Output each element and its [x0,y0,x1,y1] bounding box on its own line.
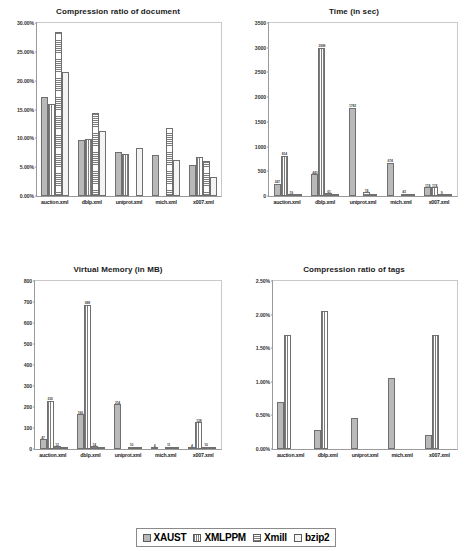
bar-group: 24781419 [269,23,307,196]
x-axis-label: auction.xml [36,199,73,205]
bar [203,161,210,196]
bar: 10 [128,447,135,449]
bar-value-label: 443 [312,171,317,175]
bar-value-label: 9 [441,191,443,195]
bar [166,128,173,196]
legend-label: XAUST [154,532,187,543]
bar: 166 [77,414,84,449]
bar-value-label: 814 [282,152,287,156]
bar: 688 [84,305,91,449]
bar: 247 [274,184,281,196]
bar-value-label: 10 [130,443,133,447]
bar [85,139,92,196]
plot-area: 0100200300400500600700800472301216668814… [34,280,222,450]
bar [351,418,358,449]
bar: 814 [281,156,288,196]
x-axis-label: auction.xml [272,452,309,458]
legend-item: bzip2 [294,532,330,543]
bar-value-label: 12 [55,443,58,447]
bar: 4 [151,447,158,449]
bar [388,378,395,449]
chart-panel-time-in-sec: Time (in sec) 05001000150020002500300035… [236,0,472,258]
bar [115,152,122,196]
bar-value-label: 174 [432,184,437,188]
bar-group: 411 [147,281,184,449]
bar [78,140,85,197]
bar [99,131,106,196]
bar-group: 67443 [382,23,420,196]
y-axis-tick-label: 15.00% [17,107,37,113]
bar: 10 [202,447,209,449]
bar [196,157,203,196]
bar-group [273,281,310,449]
legend-label: Xmill [264,532,287,543]
chart-title: Compression ratio of tags [236,258,472,274]
x-axis-label: uniprot.xml [346,452,383,458]
bar-group [74,23,111,196]
bar [408,194,415,196]
bar-value-label: 19 [290,191,293,195]
bar [284,335,291,449]
chart-title: Virtual Memory (in MB) [0,258,236,274]
chart-panel-compression-ratio-of-tags: Compression ratio of tags 0.00%0.50%1.00… [236,258,472,500]
bar [122,154,129,196]
bar-group: 412810 [184,281,221,449]
bar-group [147,23,184,196]
bar [62,72,69,196]
chart-grid: Compression ratio of document 0.00%5.00%… [0,0,472,500]
x-axis-label: uniprot.xml [344,199,382,205]
figure-page: Compression ratio of document 0.00%5.00%… [0,0,472,551]
bar: 4 [188,447,195,449]
x-axis-label: dblp.xml [72,452,110,458]
bar-group [383,281,420,449]
chart-title: Time (in sec) [236,0,472,16]
bar [210,177,217,196]
x-axis-labels: auction.xmldblp.xmluniprot.xmlmich.xmlx0… [34,452,222,458]
legend-zone: XAUSTXMLPPMXmillbzip2 [0,528,472,547]
chart-panel-virtual-memory-in-mb: Virtual Memory (in MB) 01002003004005006… [0,258,236,500]
bar-value-label: 214 [115,401,120,405]
x-axis-label: auction.xml [34,452,72,458]
bar: 443 [311,174,318,196]
bar [61,447,68,449]
x-axis-label: x007.xml [421,452,458,458]
x-axis-label: mich.xml [147,452,185,458]
bar [321,311,328,449]
bar [432,335,439,449]
bar-value-label: 174 [425,184,430,188]
bar-group [111,23,148,196]
x-axis-label: auction.xml [268,199,306,205]
bar: 1782 [349,108,356,196]
plot-area: 0500100015002000250030003500247814194432… [268,22,458,197]
bar: 128 [195,422,202,449]
y-axis-tick-label: 10.00% [17,135,37,141]
bar [55,32,62,196]
bar [172,447,179,449]
x-axis-label: dblp.xml [306,199,344,205]
bar-value-label: 166 [78,411,83,415]
bar-group [184,23,221,196]
bar-group: 178274 [344,23,382,196]
y-axis-tick-label: 20.00% [17,78,37,84]
solid-gray-swatch [143,534,151,542]
bar-value-label: 14 [93,443,96,447]
bar [277,402,284,449]
bar-value-label: 128 [196,419,201,423]
bar [92,113,99,196]
bar: 14 [91,446,98,449]
chart-panel-compression-ratio-of-document: Compression ratio of document 0.00%5.00%… [0,0,236,258]
x-axis-label: mich.xml [384,452,421,458]
bar-value-label: 11 [167,443,170,447]
bar [136,148,143,196]
legend-item: Xmill [253,532,287,543]
bar-group: 4723012 [35,281,72,449]
bar-value-label: 61 [327,190,330,194]
light-solid-swatch [294,534,302,542]
bar-value-label: 43 [402,190,405,194]
y-axis-tick-label: 25.00% [17,49,37,55]
bar-group [347,281,384,449]
bar-value-label: 4 [154,444,156,448]
bar [445,194,452,196]
bar-group [310,281,347,449]
bar: 214 [114,404,121,449]
